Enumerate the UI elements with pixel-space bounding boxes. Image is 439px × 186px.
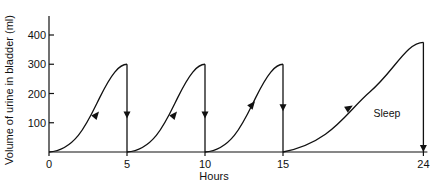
void-arrow-icon	[124, 111, 131, 118]
fill-curve-1	[49, 64, 127, 152]
x-ticks: 05101524	[46, 152, 430, 170]
void-arrow-icon	[280, 104, 287, 111]
void-arrow-icon	[420, 145, 427, 152]
x-tick-label: 5	[124, 158, 130, 170]
void-arrow-icon	[202, 111, 209, 118]
series-curves	[49, 42, 423, 152]
y-ticks: 100200300400	[28, 29, 54, 129]
annotations: Sleep	[373, 107, 400, 119]
fill-arrow-icon	[247, 99, 258, 110]
fill-curve-3	[205, 64, 283, 152]
y-tick-label: 100	[28, 117, 46, 129]
x-tick-label: 15	[277, 158, 289, 170]
bladder-volume-chart: 100200300400 05101524 Sleep Hours Volume…	[0, 0, 439, 186]
y-tick-label: 200	[28, 88, 46, 100]
fill-curve-4	[283, 42, 423, 152]
fill-curve-2	[127, 64, 205, 152]
y-tick-label: 400	[28, 29, 46, 41]
y-tick-label: 300	[28, 58, 46, 70]
x-tick-label: 10	[199, 158, 211, 170]
x-axis-title: Hours	[199, 170, 229, 182]
annotation-sleep: Sleep	[373, 107, 400, 119]
y-axis-title: Volume of urine in bladder (ml)	[3, 15, 15, 165]
x-tick-label: 24	[417, 158, 429, 170]
x-tick-label: 0	[46, 158, 52, 170]
